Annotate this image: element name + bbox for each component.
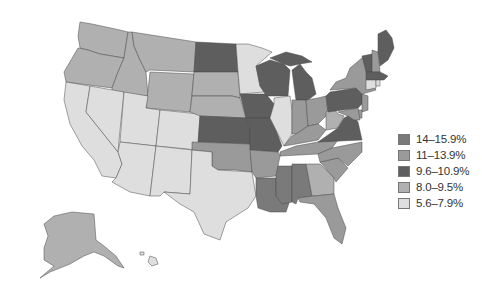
legend-swatch bbox=[398, 198, 410, 209]
legend-label: 8.0–9.5% bbox=[416, 181, 463, 193]
state-wy[interactable] bbox=[146, 72, 194, 112]
legend-swatch bbox=[398, 166, 410, 177]
state-ia[interactable] bbox=[240, 94, 274, 118]
state-hi[interactable] bbox=[148, 256, 158, 266]
state-hi-islands[interactable] bbox=[140, 252, 144, 255]
legend-item-11-13.9: 11–13.9% bbox=[398, 147, 469, 163]
state-ne[interactable] bbox=[190, 96, 246, 118]
state-mi[interactable] bbox=[292, 64, 316, 100]
legend-label: 11–13.9% bbox=[416, 149, 465, 161]
state-ma[interactable] bbox=[366, 72, 388, 80]
legend-swatch bbox=[398, 182, 410, 193]
legend-label: 14–15.9% bbox=[416, 133, 466, 145]
legend-item-14-15.9: 14–15.9% bbox=[398, 131, 469, 147]
legend-swatch bbox=[398, 134, 410, 145]
legend-swatch bbox=[398, 150, 410, 161]
state-sd[interactable] bbox=[192, 72, 240, 98]
state-nj[interactable] bbox=[362, 94, 368, 112]
state-me[interactable] bbox=[378, 30, 394, 66]
state-ks[interactable] bbox=[198, 116, 250, 144]
legend-label: 9.6–10.9% bbox=[416, 165, 469, 177]
legend-item-5.6-7.9: 5.6–7.9% bbox=[398, 195, 469, 211]
state-ct[interactable] bbox=[366, 80, 376, 90]
state-ak[interactable] bbox=[40, 212, 124, 278]
state-nm[interactable] bbox=[150, 146, 192, 196]
state-fl[interactable] bbox=[298, 194, 346, 244]
legend-item-9.6-10.9: 9.6–10.9% bbox=[398, 163, 469, 179]
legend-item-8.0-9.5: 8.0–9.5% bbox=[398, 179, 469, 195]
legend-label: 5.6–7.9% bbox=[416, 197, 463, 209]
map-legend: 14–15.9% 11–13.9% 9.6–10.9% 8.0–9.5% 5.6… bbox=[398, 131, 469, 211]
state-nd[interactable] bbox=[194, 42, 238, 72]
state-oh[interactable] bbox=[306, 96, 328, 126]
state-ri[interactable] bbox=[376, 80, 380, 86]
state-ms[interactable] bbox=[276, 166, 292, 204]
state-ar[interactable] bbox=[250, 150, 280, 178]
